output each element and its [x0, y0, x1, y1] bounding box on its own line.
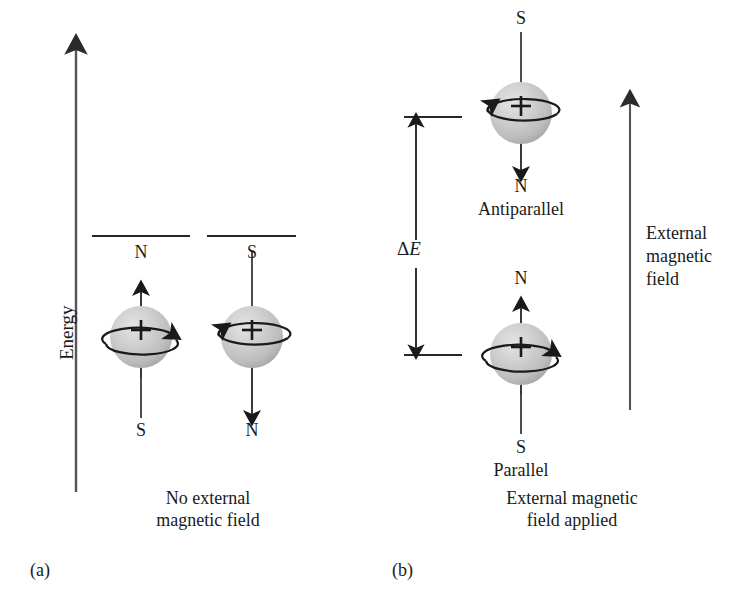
- nucleus-charge-a2: [242, 320, 262, 340]
- nmr-spin-state-figure: Energy N S S N No external magnetic fiel…: [0, 0, 736, 608]
- panel-b-tag: (b): [392, 560, 413, 581]
- panel-b-energy-levels: [404, 117, 462, 355]
- pole-label-a2-bottom: N: [246, 420, 259, 441]
- nucleus-charge-b2: [511, 337, 531, 357]
- energy-axis-label: Energy: [56, 305, 78, 360]
- pole-label-b1-top: S: [516, 8, 526, 29]
- nucleus-charge-b1: [511, 96, 531, 116]
- panel-b-caption: External magnetic field applied: [442, 487, 702, 531]
- nucleus-a2: [218, 252, 290, 416]
- delta-e-label: ΔE: [397, 238, 421, 260]
- pole-label-a1-top: N: [135, 242, 148, 263]
- pole-label-a1-bottom: S: [136, 420, 146, 441]
- pole-label-a2-top: S: [247, 242, 257, 263]
- nucleus-b-parallel: [482, 306, 558, 434]
- nucleus-a1: [102, 290, 178, 418]
- panel-a-caption: No external magnetic field: [88, 487, 328, 531]
- external-field-label: External magnetic field: [646, 222, 712, 291]
- nucleus-charge-a1: [131, 320, 151, 340]
- pole-label-b2-bottom: S: [516, 437, 526, 458]
- nucleus-b-antiparallel: [487, 32, 559, 172]
- state-label-parallel: Parallel: [494, 460, 549, 481]
- panel-a-tag: (a): [30, 560, 50, 581]
- pole-label-b1-bottom: N: [515, 176, 528, 197]
- pole-label-b2-top: N: [515, 268, 528, 289]
- state-label-antiparallel: Antiparallel: [478, 199, 564, 220]
